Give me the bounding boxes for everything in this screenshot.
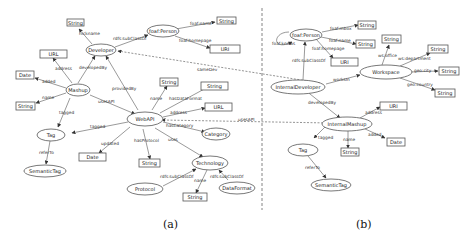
- svg-text:foaf:Person: foaf:Person: [292, 32, 320, 38]
- svg-text:URI: URI: [389, 103, 398, 109]
- literal-string-protocol[interactable]: String: [139, 159, 160, 167]
- node-internal-developer[interactable]: InternalDeveloper: [271, 80, 325, 94]
- literal-b-date-added[interactable]: Date: [387, 138, 405, 146]
- node-b-foaf-person[interactable]: foaf:Person: [290, 29, 322, 41]
- svg-text:String: String: [384, 36, 399, 43]
- svg-text:URI: URI: [221, 46, 230, 52]
- svg-text:rdfs:subClassOf: rdfs:subClassOf: [210, 174, 244, 179]
- svg-text:String: String: [188, 194, 203, 201]
- literal-b-string-office[interactable]: String: [382, 35, 401, 43]
- literal-string-tech-name[interactable]: String: [183, 193, 207, 201]
- literal-b-string-name2[interactable]: String: [341, 148, 359, 156]
- node-tag[interactable]: Tag: [37, 129, 65, 141]
- svg-text:URL: URL: [49, 51, 59, 57]
- svg-text:tagged: tagged: [90, 124, 105, 129]
- svg-text:SemanticTag: SemanticTag: [29, 168, 61, 175]
- svg-text:name: name: [194, 178, 207, 183]
- svg-text:rdfs:subClassOf: rdfs:subClassOf: [160, 174, 194, 179]
- svg-text:nickname: nickname: [79, 31, 100, 36]
- literal-b-uri-homepage[interactable]: URI: [331, 58, 358, 66]
- svg-text:Developer: Developer: [88, 47, 115, 54]
- literal-b-string-city[interactable]: String: [439, 67, 459, 75]
- literal-b-string-country[interactable]: String: [435, 89, 455, 97]
- svg-text:Date: Date: [87, 154, 99, 160]
- svg-text:updated: updated: [101, 141, 119, 146]
- svg-text:String: String: [219, 18, 234, 25]
- svg-text:rdfs:subClassOf: rdfs:subClassOf: [113, 36, 147, 41]
- literal-b-string-name[interactable]: String: [356, 40, 375, 48]
- literal-uri-homepage[interactable]: URI: [210, 45, 240, 53]
- svg-text:name: name: [42, 95, 55, 100]
- svg-text:geo:city: geo:city: [414, 68, 432, 73]
- literal-url-api[interactable]: URL: [205, 103, 232, 111]
- svg-text:Date: Date: [19, 72, 31, 78]
- svg-text:ws:department: ws:department: [398, 56, 431, 61]
- svg-text:foaf:mbox: foaf:mbox: [330, 26, 352, 31]
- svg-text:geo:country: geo:country: [407, 82, 433, 87]
- svg-text:hasCategory: hasCategory: [166, 123, 194, 128]
- svg-text:Date: Date: [390, 139, 402, 145]
- svg-text:added: added: [42, 79, 56, 84]
- literal-date-added[interactable]: Date: [16, 71, 34, 79]
- node-technology[interactable]: Technology: [192, 156, 228, 170]
- node-foaf-person[interactable]: foaf:Person: [147, 25, 179, 37]
- svg-text:Tag: Tag: [46, 132, 55, 139]
- node-internal-mashup[interactable]: InternalMashup: [322, 117, 372, 131]
- node-protocol[interactable]: Protocol: [127, 183, 163, 195]
- svg-text:hasDataFormat: hasDataFormat: [169, 96, 202, 101]
- literal-string-dataformat[interactable]: String: [201, 82, 228, 90]
- svg-text:DataFormat: DataFormat: [222, 185, 252, 191]
- svg-text:foaf:homepage: foaf:homepage: [179, 38, 212, 43]
- svg-text:providedBy: providedBy: [112, 86, 137, 91]
- literal-b-uri-address[interactable]: URI: [380, 102, 407, 110]
- diagram-b-nodes: foaf:Person InternalDeveloper Workspace …: [271, 21, 459, 191]
- svg-text:String: String: [360, 22, 375, 29]
- svg-text:String: String: [142, 160, 157, 167]
- literal-b-string-mbox[interactable]: String: [358, 21, 376, 29]
- svg-text:Workspace: Workspace: [372, 69, 399, 76]
- svg-text:Protocol: Protocol: [135, 186, 155, 192]
- svg-text:tagged: tagged: [318, 135, 333, 140]
- svg-text:foaf:homepage: foaf:homepage: [312, 46, 345, 51]
- node-webapi[interactable]: WebAPI: [127, 112, 163, 126]
- svg-text:address: address: [365, 110, 383, 115]
- node-b-semantictag[interactable]: SemanticTag: [311, 179, 351, 191]
- caption-a: (a): [163, 218, 178, 231]
- node-dataformat[interactable]: DataFormat: [219, 182, 255, 194]
- node-b-tag[interactable]: Tag: [288, 144, 318, 156]
- node-category[interactable]: Category: [202, 128, 230, 140]
- literal-string-foafname[interactable]: String: [217, 17, 236, 25]
- literal-date-updated[interactable]: Date: [79, 153, 106, 161]
- svg-text:String: String: [18, 103, 33, 110]
- svg-text:name: name: [343, 137, 356, 142]
- svg-text:foaf:knows: foaf:knows: [272, 41, 296, 46]
- svg-text:developedBy: developedBy: [79, 65, 107, 70]
- node-semantictag[interactable]: SemanticTag: [24, 165, 66, 177]
- svg-text:referTo: referTo: [39, 150, 54, 155]
- svg-text:uses: uses: [168, 137, 179, 142]
- literal-b-string-department[interactable]: String: [428, 45, 448, 53]
- literal-string-api-name[interactable]: String: [160, 78, 178, 86]
- svg-text:address: address: [55, 66, 73, 71]
- literal-url-mashup[interactable]: URL: [40, 50, 67, 58]
- svg-text:String: String: [207, 83, 222, 90]
- svg-text:InternalMashup: InternalMashup: [328, 121, 367, 128]
- svg-text:Technology: Technology: [195, 160, 224, 167]
- literal-string-nickname[interactable]: String: [67, 19, 84, 27]
- svg-text:ws:office: ws:office: [378, 53, 397, 58]
- node-mashup[interactable]: Mashup: [66, 84, 90, 96]
- svg-text:address: address: [170, 110, 188, 115]
- svg-text:foaf:name: foaf:name: [329, 38, 351, 43]
- svg-text:InternalDeveloper: InternalDeveloper: [276, 84, 322, 91]
- svg-text:Tag: Tag: [298, 147, 307, 154]
- svg-text:String: String: [442, 68, 457, 75]
- svg-text:developedBy: developedBy: [308, 100, 336, 105]
- node-workspace[interactable]: Workspace: [360, 65, 412, 79]
- node-developer[interactable]: Developer: [86, 44, 116, 56]
- svg-text:URI: URI: [340, 59, 349, 65]
- svg-text:String: String: [438, 90, 453, 97]
- svg-text:String: String: [358, 41, 373, 48]
- svg-text:added: added: [368, 132, 382, 137]
- svg-text:usesAPI: usesAPI: [98, 99, 115, 104]
- literal-string-mashup-name[interactable]: String: [16, 102, 35, 110]
